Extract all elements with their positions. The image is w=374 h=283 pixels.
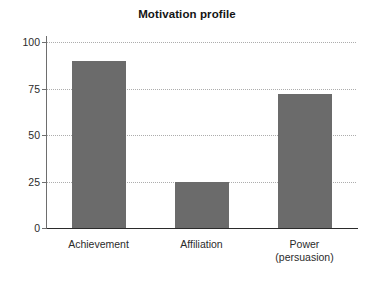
y-tick-label-100: 100	[10, 37, 40, 48]
x-axis-label-1: Affiliation	[150, 238, 253, 251]
x-axis-label-0: Achievement	[47, 238, 150, 251]
y-tick-label-0: 0	[10, 223, 40, 234]
bar-chart: Motivation profile 0255075100 Achievemen…	[0, 0, 374, 283]
chart-title: Motivation profile	[0, 8, 374, 20]
y-tick-label-25: 25	[10, 176, 40, 187]
bar-achievement[interactable]	[72, 61, 126, 228]
x-axis-label-2: Power (persuasion)	[253, 238, 356, 264]
gridline-100	[47, 42, 356, 43]
y-tick-mark-0	[42, 228, 47, 229]
plot-area	[47, 42, 356, 228]
bar-affiliation[interactable]	[175, 182, 229, 229]
y-tick-label-50: 50	[10, 130, 40, 141]
bar-power-persuasion[interactable]	[278, 94, 332, 228]
y-tick-label-75: 75	[10, 83, 40, 94]
x-axis-line	[47, 228, 358, 229]
